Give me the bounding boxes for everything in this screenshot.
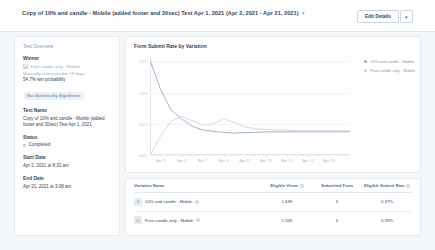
page-title: Copy of 10% and candle - Mobile (added f… <box>22 10 299 16</box>
y-axis-tick-label: 1.0% <box>139 90 148 95</box>
x-axis-tick-label: Apr 13 <box>260 158 271 163</box>
page-title-group[interactable]: Copy of 10% and candle - Mobile (added f… <box>22 10 305 16</box>
legend-item[interactable]: 10% and candle - Mobile <box>364 59 418 64</box>
table-header-row: Variation NameEligible ViewsiSubmitted F… <box>134 179 412 193</box>
x-axis-tick-label: Apr 7 <box>198 158 207 163</box>
edit-details-button[interactable]: Edit Details <box>357 10 399 23</box>
info-icon[interactable]: i <box>406 184 410 188</box>
legend-dot-icon <box>364 69 367 72</box>
winner-probability: 54.7% win probability <box>23 77 111 83</box>
status-value-row: Completed <box>23 142 111 148</box>
column-header[interactable]: Eligible Viewsi <box>262 183 312 188</box>
variation-chip-icon: B <box>23 64 28 69</box>
x-axis-tick-mark <box>161 155 162 157</box>
gridline <box>150 124 350 125</box>
eligible-views-cell: 1.56K <box>262 218 312 223</box>
test-name-section: Test Name Copy of 10% and candle - Mobil… <box>23 108 111 128</box>
x-axis-tick-mark <box>182 155 183 157</box>
eligible-submit-rate-cell: 0.37% <box>362 199 412 204</box>
column-header[interactable]: Eligible Submit Ratei <box>362 183 412 188</box>
column-header-label: Variation Name <box>134 183 164 188</box>
x-axis-tick-mark <box>287 155 288 157</box>
column-header-label: Eligible Views <box>270 183 298 188</box>
gridline <box>150 93 350 94</box>
test-name-heading: Test Name <box>23 108 111 113</box>
test-name-value: Copy of 10% and candle - Mobile (added f… <box>23 116 111 128</box>
column-header[interactable]: Variation Name <box>134 183 164 188</box>
variation-chip-icon: A <box>134 198 142 206</box>
eligible-submit-rate-cell: 0.39% <box>362 218 412 223</box>
chart-card: Form Submit Rate by Variation 0.0%0.5%1.… <box>125 36 421 173</box>
chart-line-series <box>150 116 350 155</box>
variation-table: Variation NameEligible ViewsiSubmitted F… <box>125 178 421 236</box>
variation-name: 10% and candle - Mobile <box>145 199 192 204</box>
x-axis-tick-mark <box>266 155 267 157</box>
chevron-down-icon[interactable]: ▾ <box>302 11 305 16</box>
x-axis-tick-mark <box>224 155 225 157</box>
winner-variation-name: Free candle only - Mobile <box>31 64 80 70</box>
legend-item-label: 10% and candle - Mobile <box>370 59 414 64</box>
edit-details-dropdown-button[interactable]: ▾ <box>400 10 413 23</box>
x-axis-tick-mark <box>245 155 246 157</box>
x-axis-tick-label: Apr 19 <box>323 158 334 163</box>
chart-legend: 10% and candle - MobileFree candle only … <box>364 59 418 78</box>
variation-name: Free candle only - Mobile <box>145 218 193 223</box>
winner-section: Winner B Free candle only - Mobile Manua… <box>23 56 111 101</box>
info-icon[interactable]: i <box>196 218 200 222</box>
y-axis-tick-label: 0.0% <box>139 153 148 158</box>
x-axis-tick-label: Apr 11 <box>239 158 250 163</box>
test-overview-label: Test Overview <box>23 44 111 49</box>
x-axis-tick-mark <box>329 155 330 157</box>
submitted-form-cell: 6 <box>312 199 362 204</box>
chart-plot-area[interactable]: 0.0%0.5%1.0%1.5%Apr 3Apr 5Apr 7Apr 9Apr … <box>150 55 350 155</box>
end-date-section: End Date Apr 21, 2021 at 3:08 am <box>23 176 111 190</box>
legend-item[interactable]: Free candle only - Mobile <box>364 68 418 73</box>
table-body: A10% and candle - Mobilei1.63K60.37%BFre… <box>134 193 412 229</box>
gridline <box>150 155 350 156</box>
y-axis-tick-label: 1.5% <box>139 59 148 64</box>
info-icon[interactable]: i <box>195 200 199 204</box>
y-axis-tick-label: 0.5% <box>139 121 148 126</box>
column-header-label: Eligible Submit Rate <box>364 183 405 188</box>
start-date-heading: Start Date <box>23 155 111 160</box>
x-axis-tick-label: Apr 9 <box>219 158 228 163</box>
x-axis-tick-label: Apr 17 <box>302 158 313 163</box>
chart-line-series <box>150 60 350 133</box>
x-axis-tick-label: Apr 15 <box>281 158 292 163</box>
end-date-value: Apr 21, 2021 at 3:08 am <box>23 184 111 190</box>
test-overview-panel: Test Overview Winner B Free candle only … <box>14 36 120 236</box>
chart-title: Form Submit Rate by Variation <box>134 43 207 49</box>
x-axis-tick-mark <box>203 155 204 157</box>
x-axis-tick-mark <box>308 155 309 157</box>
variation-chip-icon: B <box>134 216 142 224</box>
gridline <box>150 61 350 62</box>
table-row[interactable]: A10% and candle - Mobilei1.63K60.37% <box>134 193 412 212</box>
info-icon[interactable]: i <box>300 184 304 188</box>
winner-selection-note: Manually selected after 19 days <box>23 71 111 77</box>
start-date-section: Start Date Apr 2, 2021 at 8:33 am <box>23 155 111 169</box>
x-axis-tick-label: Apr 3 <box>156 158 165 163</box>
status-value: Completed <box>29 142 51 148</box>
submitted-form-cell: 6 <box>312 218 362 223</box>
legend-item-label: Free candle only - Mobile <box>370 68 415 73</box>
status-heading: Status <box>23 135 111 140</box>
start-date-value: Apr 2, 2021 at 8:33 am <box>23 163 111 169</box>
page-header: Copy of 10% and candle - Mobile (added f… <box>0 0 435 32</box>
status-dot-icon <box>23 144 26 147</box>
test-results-page: Copy of 10% and candle - Mobile (added f… <box>0 0 435 250</box>
legend-dot-icon <box>364 60 367 63</box>
column-header-label: Submitted Form <box>321 183 353 188</box>
chart-series-svg <box>150 55 350 155</box>
winner-heading: Winner <box>23 56 111 61</box>
end-date-heading: End Date <box>23 176 111 181</box>
status-section: Status Completed <box>23 135 111 149</box>
column-header[interactable]: Submitted Form <box>312 183 362 188</box>
table-row[interactable]: BFree candle only - Mobilei1.56K60.39% <box>134 212 412 230</box>
status-badge: Not Statistically Significant <box>23 92 84 100</box>
winner-variation-row: B Free candle only - Mobile <box>23 64 111 70</box>
eligible-views-cell: 1.63K <box>262 199 312 204</box>
x-axis-tick-label: Apr 5 <box>177 158 186 163</box>
